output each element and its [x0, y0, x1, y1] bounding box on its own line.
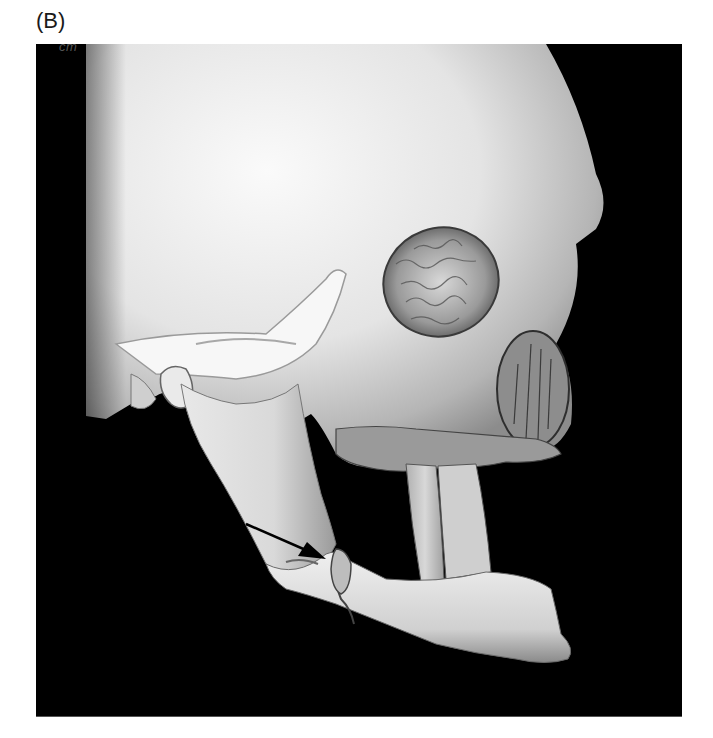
panel-label: (B): [36, 8, 65, 34]
ct-image-frame: [36, 44, 682, 717]
scale-label: cm: [59, 39, 77, 54]
nasal-cavity: [497, 331, 569, 447]
skull-rendering: [36, 44, 682, 716]
